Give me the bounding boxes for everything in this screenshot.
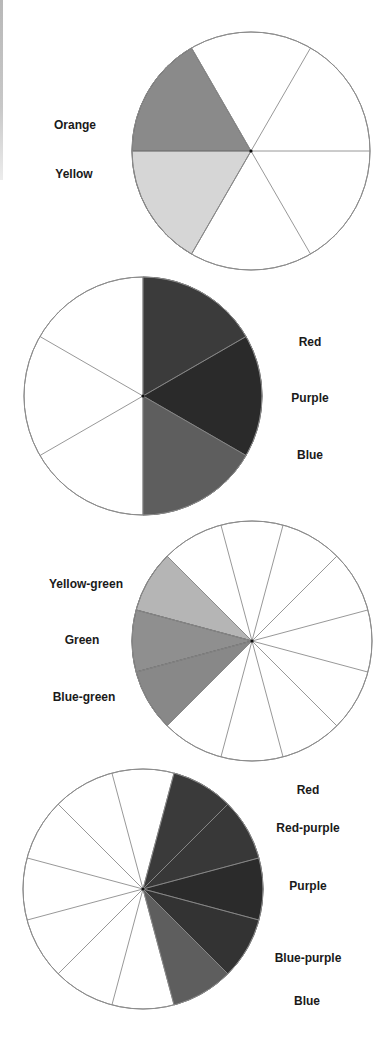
label-red: Red: [299, 335, 322, 349]
label-blue: Blue: [297, 448, 323, 462]
color-wheel-1: [132, 32, 370, 270]
label-blue-green: Blue-green: [53, 690, 116, 704]
wheel-center-dot: [250, 639, 253, 642]
label-red-purple: Red-purple: [276, 821, 339, 835]
wheel-center-dot: [249, 149, 252, 152]
color-wheel-3: [132, 521, 372, 761]
color-wheel-4: [23, 769, 263, 1009]
label-blue: Blue: [294, 994, 320, 1008]
label-yellow: Yellow: [55, 167, 92, 181]
label-purple: Purple: [291, 391, 328, 405]
label-red: Red: [297, 783, 320, 797]
color-wheel-2: [24, 277, 262, 515]
label-purple: Purple: [289, 879, 326, 893]
wheel-center-dot: [141, 394, 144, 397]
label-blue-purple: Blue-purple: [275, 951, 342, 965]
label-green: Green: [65, 633, 100, 647]
label-orange: Orange: [54, 118, 96, 132]
wheel-center-dot: [141, 887, 144, 890]
label-yellow-green: Yellow-green: [49, 577, 123, 591]
